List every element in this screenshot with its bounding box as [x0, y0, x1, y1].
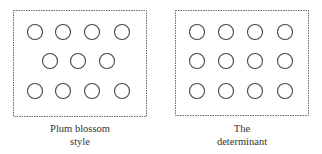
- circle-icon: [71, 54, 86, 69]
- panel-determinant: [176, 11, 309, 116]
- circle-icon: [219, 25, 234, 40]
- caption-determinant-line2: determinant: [172, 135, 312, 148]
- caption-determinant-line1: The: [172, 122, 312, 135]
- circle-icon: [190, 84, 205, 99]
- caption-determinant: The determinant: [172, 122, 312, 148]
- circle-icon: [100, 54, 115, 69]
- circle-icon: [190, 25, 205, 40]
- circle-icon: [85, 25, 100, 40]
- panel-plum-blossom: [14, 11, 147, 117]
- circle-icon: [28, 84, 43, 99]
- circle-icon: [28, 25, 43, 40]
- circle-icon: [56, 25, 71, 40]
- circle-icon: [56, 84, 71, 99]
- circle-icon: [85, 84, 100, 99]
- caption-plum-blossom-line1: Plum blossom: [10, 122, 150, 135]
- circle-icon: [219, 84, 234, 99]
- caption-plum-blossom: Plum blossom style: [10, 122, 150, 148]
- caption-plum-blossom-line2: style: [10, 135, 150, 148]
- circle-icon: [190, 54, 205, 69]
- circle-icon: [219, 54, 234, 69]
- circle-icon: [115, 84, 130, 99]
- circle-icon: [43, 54, 58, 69]
- dashed-border: [176, 11, 309, 116]
- circle-icon: [115, 25, 130, 40]
- circle-icon: [278, 84, 293, 99]
- circle-icon: [248, 25, 263, 40]
- circle-icon: [248, 54, 263, 69]
- circle-icon: [278, 54, 293, 69]
- circle-icon: [248, 84, 263, 99]
- circle-icon: [278, 25, 293, 40]
